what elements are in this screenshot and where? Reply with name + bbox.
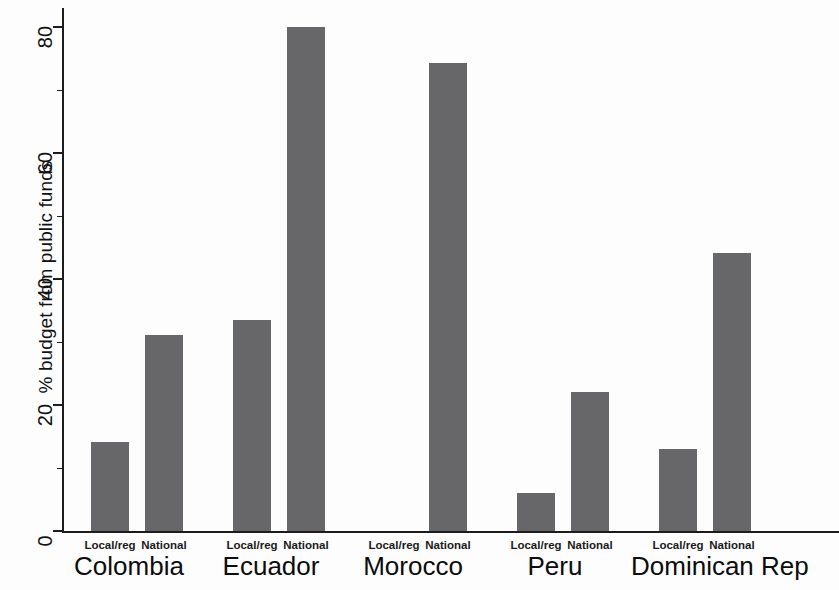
plot-area: 806040200 Local/regNationalLocal/regNati… bbox=[62, 8, 839, 533]
bar bbox=[287, 27, 325, 531]
y-tick-label: 20 bbox=[45, 415, 65, 437]
y-tick-mark-minor bbox=[57, 216, 62, 217]
bar bbox=[659, 449, 697, 531]
bar-chart: % budget from public funds 806040200 Loc… bbox=[0, 0, 839, 590]
bar bbox=[517, 493, 555, 531]
y-tick-mark-minor bbox=[57, 90, 62, 91]
bar bbox=[233, 320, 271, 531]
y-tick-label: 80 bbox=[45, 37, 65, 59]
x-group-label: Dominican Rep bbox=[631, 553, 763, 579]
x-sub-label: National bbox=[705, 539, 759, 551]
x-sub-label: National bbox=[421, 539, 475, 551]
y-tick-mark-minor bbox=[57, 468, 62, 469]
bar bbox=[429, 63, 467, 531]
x-group-label: Peru bbox=[489, 553, 621, 579]
y-tick-mark-minor bbox=[57, 342, 62, 343]
x-sub-label: Local/reg bbox=[651, 539, 705, 551]
x-sub-label: National bbox=[137, 539, 191, 551]
x-sub-label: Local/reg bbox=[509, 539, 563, 551]
bar bbox=[91, 442, 129, 531]
x-group-label: Colombia bbox=[63, 553, 195, 579]
x-sub-label: National bbox=[563, 539, 617, 551]
x-axis-line bbox=[62, 531, 839, 533]
bar bbox=[145, 335, 183, 531]
bar bbox=[713, 253, 751, 531]
x-group-label: Morocco bbox=[347, 553, 479, 579]
y-tick-label: 60 bbox=[45, 163, 65, 185]
bar bbox=[571, 392, 609, 531]
y-tick-label: 40 bbox=[45, 289, 65, 311]
x-sub-label: Local/reg bbox=[367, 539, 421, 551]
x-sub-label: National bbox=[279, 539, 333, 551]
x-sub-label: Local/reg bbox=[225, 539, 279, 551]
x-group-label: Ecuador bbox=[205, 553, 337, 579]
x-sub-label: Local/reg bbox=[83, 539, 137, 551]
y-tick-label: 0 bbox=[45, 541, 65, 552]
y-tick-mark bbox=[53, 530, 62, 532]
y-axis-line bbox=[62, 8, 64, 533]
